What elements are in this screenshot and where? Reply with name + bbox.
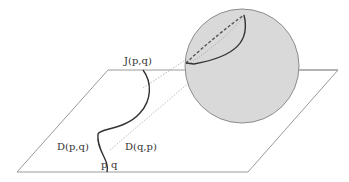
label-d-pq: D(p,q) xyxy=(57,141,89,152)
label-j: J(p,q) xyxy=(123,55,152,66)
label-q: q xyxy=(111,159,118,170)
projection-line-lower xyxy=(110,75,198,150)
diagram-canvas: J(p,q) D(p,q) D(q,p) p q xyxy=(0,0,349,182)
j-curve xyxy=(98,70,150,172)
sphere xyxy=(185,9,299,123)
label-p: p xyxy=(101,159,107,170)
label-d-qp: D(q,p) xyxy=(125,141,157,152)
